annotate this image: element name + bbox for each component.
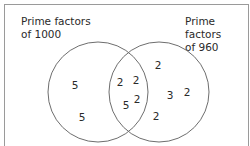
factor-common-4: 5 bbox=[123, 99, 130, 111]
factor-960-only-3: 2 bbox=[184, 86, 191, 98]
factor-1000-only-1: 5 bbox=[72, 79, 79, 91]
factor-common-3: 2 bbox=[134, 93, 141, 105]
factor-1000-only-2: 5 bbox=[79, 111, 86, 123]
factor-960-only-1: 2 bbox=[155, 59, 162, 71]
venn-diagram: 5 5 2 2 2 5 2 3 2 2 bbox=[0, 0, 250, 146]
factor-common-1: 2 bbox=[117, 76, 124, 88]
factor-960-only-2: 3 bbox=[167, 89, 174, 101]
circle-960 bbox=[109, 42, 209, 142]
factor-960-only-4: 2 bbox=[153, 110, 160, 122]
circle-1000 bbox=[48, 42, 148, 142]
factor-common-2: 2 bbox=[133, 74, 140, 86]
